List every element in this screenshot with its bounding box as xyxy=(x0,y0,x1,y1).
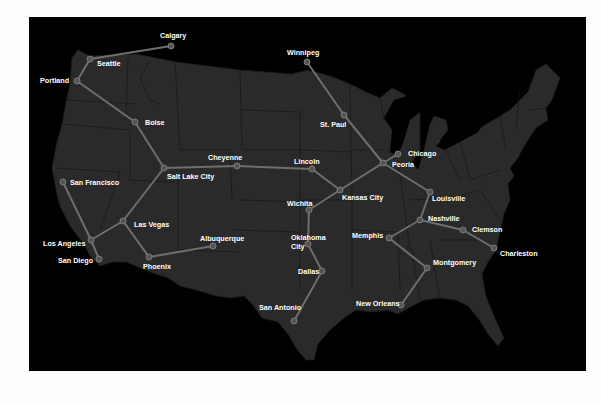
city-label-cheyenne: Cheyenne xyxy=(208,153,242,162)
city-label-salt-lake-city: Salt Lake City xyxy=(167,172,214,181)
city-node-seattle[interactable] xyxy=(87,56,93,62)
city-node-clemson[interactable] xyxy=(460,227,466,233)
city-label-phoenix: Phoenix xyxy=(143,262,171,271)
city-node-cheyenne[interactable] xyxy=(234,163,240,169)
city-label-san-francisco: San Francisco xyxy=(70,178,120,187)
city-label-oklahoma-city-line2: City xyxy=(291,242,305,251)
us-map[interactable]: CalgarySeattlePortlandBoiseSalt Lake Cit… xyxy=(29,17,586,371)
city-node-st-paul[interactable] xyxy=(341,112,347,118)
city-node-san-antonio[interactable] xyxy=(291,318,297,324)
city-node-los-angeles[interactable] xyxy=(88,237,94,243)
city-label-montgomery: Montgomery xyxy=(433,258,476,267)
city-node-san-diego[interactable] xyxy=(96,256,102,262)
city-node-peoria[interactable] xyxy=(380,160,386,166)
city-node-calgary[interactable] xyxy=(168,43,174,49)
city-label-los-angeles: Los Angeles xyxy=(43,239,85,248)
city-label-new-orleans: New Orleans xyxy=(356,299,400,308)
city-node-albuquerque[interactable] xyxy=(210,243,216,249)
city-label-chicago: Chicago xyxy=(408,149,437,158)
city-node-charleston[interactable] xyxy=(491,245,497,251)
city-label-albuquerque: Albuquerque xyxy=(200,234,244,243)
city-node-winnipeg[interactable] xyxy=(304,59,310,65)
city-label-boise: Boise xyxy=(145,118,165,127)
city-node-montgomery[interactable] xyxy=(424,265,430,271)
city-node-phoenix[interactable] xyxy=(146,254,152,260)
city-label-oklahoma-city: Oklahoma xyxy=(291,233,327,242)
city-label-charleston: Charleston xyxy=(500,249,538,258)
city-label-san-diego: San Diego xyxy=(58,256,94,265)
city-label-san-antonio: San Antonio xyxy=(259,303,302,312)
city-label-calgary: Calgary xyxy=(160,31,186,40)
city-label-memphis: Memphis xyxy=(352,231,383,240)
city-label-las-vegas: Las Vegas xyxy=(134,220,169,229)
city-node-salt-lake-city[interactable] xyxy=(161,165,167,171)
city-label-dallas: Dallas xyxy=(298,267,319,276)
city-label-lincoln: Lincoln xyxy=(294,157,320,166)
city-node-memphis[interactable] xyxy=(386,235,392,241)
city-node-lincoln[interactable] xyxy=(309,166,315,172)
map-frame: CalgarySeattlePortlandBoiseSalt Lake Cit… xyxy=(29,17,586,371)
city-node-san-francisco[interactable] xyxy=(60,179,66,185)
city-node-dallas[interactable] xyxy=(319,268,325,274)
city-label-peoria: Peoria xyxy=(392,160,415,169)
city-label-wichita: Wichita xyxy=(287,199,313,208)
city-label-nashville: Nashville xyxy=(428,214,460,223)
city-label-clemson: Clemson xyxy=(472,225,502,234)
city-label-kansas-city: Kansas City xyxy=(342,193,383,202)
city-node-portland[interactable] xyxy=(74,78,80,84)
city-label-louisville: Louisville xyxy=(432,194,465,203)
city-node-las-vegas[interactable] xyxy=(120,218,126,224)
city-node-boise[interactable] xyxy=(132,119,138,125)
city-label-winnipeg: Winnipeg xyxy=(287,48,319,57)
city-label-st-paul: St. Paul xyxy=(320,120,346,129)
city-label-portland: Portland xyxy=(40,76,69,85)
city-node-nashville[interactable] xyxy=(417,217,423,223)
city-node-chicago[interactable] xyxy=(395,151,401,157)
city-label-seattle: Seattle xyxy=(97,59,121,68)
